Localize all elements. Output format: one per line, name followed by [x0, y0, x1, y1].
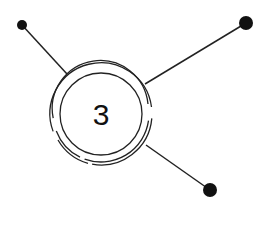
spoke-line-top-right [145, 23, 246, 84]
node-dot-top-right [239, 16, 253, 30]
spoke-line-bottom-right [146, 145, 210, 190]
node-dot-top-left [17, 20, 27, 30]
node-dot-bottom-right [203, 183, 217, 197]
hub-spoke-diagram: 3 [0, 0, 262, 226]
spoke-line-top-left [22, 25, 67, 74]
hub-label: 3 [93, 98, 110, 131]
